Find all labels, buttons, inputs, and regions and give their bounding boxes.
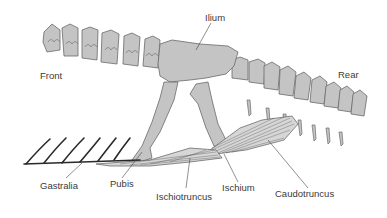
gastralia-bones: [24, 138, 140, 164]
label-ischium: Ischium: [222, 183, 255, 193]
label-front: Front: [40, 71, 62, 81]
pubis-bone: [132, 82, 178, 162]
anatomy-diagram: Front Rear Ilium Gastralia Pubis Ischiot…: [0, 0, 387, 218]
ischium-bone: [190, 82, 226, 148]
label-rear: Rear: [338, 70, 359, 80]
label-ilium: Ilium: [205, 13, 225, 23]
label-pubis: Pubis: [110, 179, 134, 189]
label-gastralia: Gastralia: [40, 181, 78, 191]
label-ischiotruncus: Ischiotruncus: [156, 192, 212, 202]
label-caudotruncus: Caudotruncus: [275, 189, 334, 199]
